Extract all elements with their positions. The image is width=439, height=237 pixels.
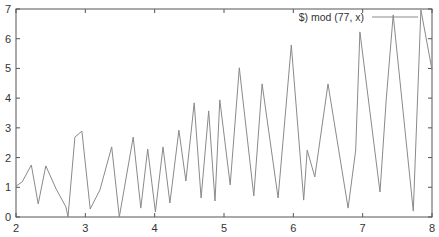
legend-label: $) mod (77, x) <box>299 11 364 23</box>
x-tick-label: 8 <box>429 222 435 234</box>
x-tick-label: 5 <box>221 222 227 234</box>
y-tick-label: 3 <box>5 122 11 134</box>
x-axis: 2345678 <box>13 9 435 234</box>
x-tick-label: 4 <box>152 222 158 234</box>
y-tick-label: 4 <box>5 92 11 104</box>
y-tick-label: 5 <box>5 62 11 74</box>
line-chart: 2345678 01234567 $) mod (77, x) <box>0 0 439 237</box>
data-line <box>16 10 432 217</box>
x-tick-label: 6 <box>290 222 296 234</box>
x-tick-label: 3 <box>82 222 88 234</box>
y-axis: 01234567 <box>5 3 432 223</box>
y-tick-label: 7 <box>5 3 11 15</box>
y-tick-label: 1 <box>5 181 11 193</box>
y-tick-label: 2 <box>5 152 11 164</box>
y-tick-label: 6 <box>5 33 11 45</box>
x-tick-label: 2 <box>13 222 19 234</box>
y-tick-label: 0 <box>5 211 11 223</box>
x-tick-label: 7 <box>360 222 366 234</box>
legend: $) mod (77, x) <box>299 11 418 23</box>
